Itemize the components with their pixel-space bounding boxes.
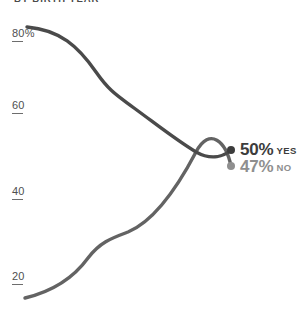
callout-no-value: 47% [240, 157, 273, 176]
callout-no-answer: NO [276, 162, 291, 173]
chart-container: BY BIRTH YEAR 80% 60 40 20 50%YES 47%NO [0, 0, 300, 320]
endpoint-dot-yes [227, 146, 235, 154]
callout-yes: 50%YES [240, 141, 297, 158]
line-series-no [25, 139, 231, 298]
line-series-yes [27, 27, 231, 157]
endpoint-dot-no [227, 162, 235, 170]
callout-no: 47%NO [240, 158, 292, 175]
callout-yes-answer: YES [276, 145, 297, 156]
